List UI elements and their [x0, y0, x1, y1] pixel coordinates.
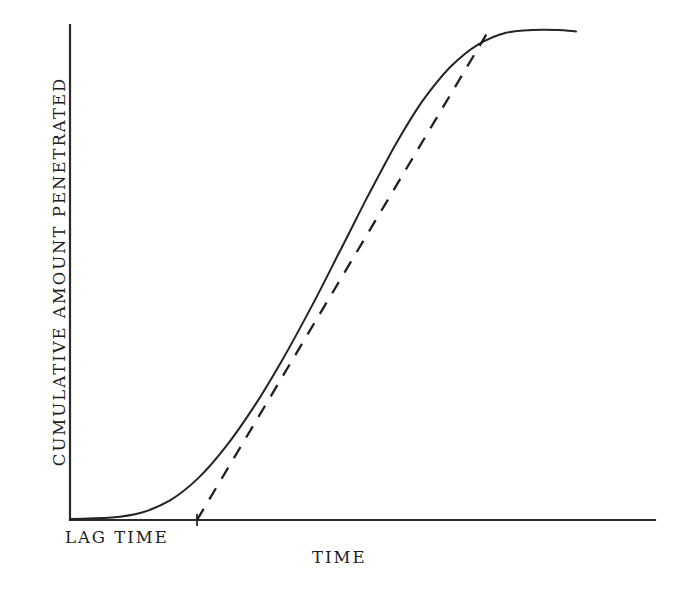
lag-time-label: LAG TIME [65, 528, 169, 547]
permeation-lag-time-chart: CUMULATIVE AMOUNT PENETRATED LAG TIME TI… [0, 0, 684, 594]
chart-plot-area [0, 0, 684, 594]
cumulative-amount-curve [70, 30, 576, 519]
y-axis-label: CUMULATIVE AMOUNT PENETRATED [50, 37, 69, 507]
x-axis-label: TIME [312, 548, 366, 567]
steady-state-tangent-line [197, 30, 489, 520]
